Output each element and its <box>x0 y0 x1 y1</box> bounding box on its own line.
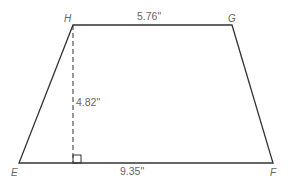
top-base-length: 5.76" <box>137 10 161 22</box>
right-angle-marker <box>73 155 81 163</box>
height-length: 4.82" <box>76 96 100 108</box>
vertex-label-g: G <box>228 13 236 24</box>
vertex-label-e: E <box>11 167 18 178</box>
trapezoid-diagram: H G E F 5.76" 4.82" 9.35" <box>0 0 288 183</box>
trapezoid-outline <box>19 25 273 163</box>
bottom-base-length: 9.35" <box>120 165 144 177</box>
vertex-label-f: F <box>270 167 277 178</box>
vertex-label-h: H <box>64 13 72 24</box>
